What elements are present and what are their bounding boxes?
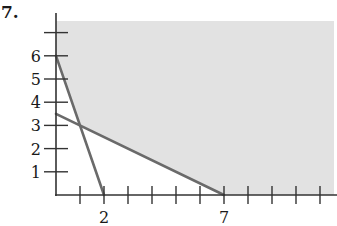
y-tick-label: 3 (31, 116, 41, 135)
y-tick-label: 2 (31, 140, 41, 159)
chart: 27123456 (0, 0, 337, 226)
y-tick-label: 6 (31, 47, 41, 66)
x-tick-label: 7 (219, 208, 229, 226)
x-tick-label: 2 (99, 208, 109, 226)
y-tick-label: 1 (31, 163, 41, 182)
shaded-feasible-region (56, 21, 334, 195)
y-tick-label: 4 (31, 93, 41, 112)
shaded-region (56, 21, 334, 195)
y-tick-label: 5 (31, 70, 41, 89)
